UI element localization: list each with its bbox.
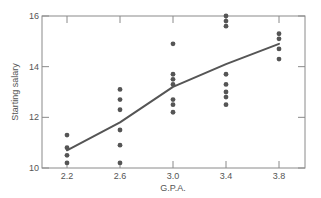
data-point xyxy=(65,133,70,138)
data-point xyxy=(118,128,123,133)
data-point xyxy=(277,31,282,36)
data-point xyxy=(118,161,123,166)
data-point xyxy=(171,72,176,77)
data-point xyxy=(118,97,123,102)
plot-frame xyxy=(42,16,305,168)
data-point xyxy=(171,41,176,46)
data-point xyxy=(224,82,229,87)
x-tick-label: 2.6 xyxy=(114,171,127,181)
x-tick-label: 3.4 xyxy=(220,171,233,181)
x-tick-label: 3.8 xyxy=(273,171,286,181)
data-point xyxy=(224,95,229,100)
y-tick-label: 12 xyxy=(29,112,39,122)
data-point xyxy=(65,161,70,166)
data-point xyxy=(224,19,229,24)
x-tick-label: 3.0 xyxy=(167,171,180,181)
y-tick-label: 10 xyxy=(29,163,39,173)
data-point xyxy=(277,47,282,52)
data-point xyxy=(171,97,176,102)
data-point xyxy=(224,14,229,19)
data-point xyxy=(171,102,176,107)
data-point xyxy=(171,110,176,115)
y-tick-label: 14 xyxy=(29,62,39,72)
data-point xyxy=(224,24,229,29)
trend-lines xyxy=(67,44,279,150)
data-points xyxy=(65,14,282,166)
data-point xyxy=(277,36,282,41)
x-axis-label: G.P.A. xyxy=(160,183,185,193)
data-point xyxy=(277,57,282,62)
y-tick-label: 16 xyxy=(29,11,39,21)
mean-salary-line xyxy=(67,44,279,150)
x-tick-label: 2.2 xyxy=(61,171,74,181)
data-point xyxy=(118,87,123,92)
scatter-chart: 2.22.63.03.43.8 10121416 G.P.A. Starting… xyxy=(0,0,321,198)
y-axis-label: Starting salary xyxy=(10,63,20,121)
data-point xyxy=(224,72,229,77)
data-point xyxy=(224,90,229,95)
data-point xyxy=(224,102,229,107)
data-point xyxy=(65,153,70,158)
data-point xyxy=(118,107,123,112)
data-point xyxy=(118,143,123,148)
data-point xyxy=(171,77,176,82)
